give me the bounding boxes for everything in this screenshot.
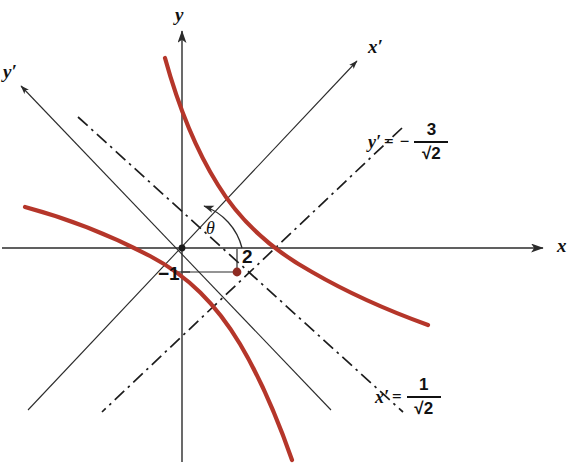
x-prime-equation-var: x [375,387,384,408]
x-prime-equation-fraction: 1 √2 [407,375,441,419]
x-axis-label: x [557,236,567,255]
x-prime-equation-prime: ′ [384,387,389,408]
x-prime-axis-label-prime: ′ [378,36,383,57]
y-prime-equation-sign: − [400,132,410,152]
x-prime-axis-line [28,61,357,410]
y-prime-equation-fraction: 3 √2 [414,120,448,164]
y-prime-equation: y′ = − 3 √2 [368,120,448,164]
dash-dot-line-parallel-x-prime [78,117,403,412]
theta-label: θ [206,219,215,237]
x-prime-axis-label-var: x [368,36,378,57]
x-prime-equation-equals: = [392,387,402,407]
primed-axes-group [21,61,357,410]
dash-dot-lines-group [78,117,403,412]
tick-label-minus-one: −1 [158,264,180,283]
y-axis-label: y [175,5,183,24]
origin-dot [179,245,186,252]
marked-point-dot [233,268,242,277]
x-prime-equation-denominator: √2 [409,398,438,419]
marked-point-group [176,245,241,277]
y-prime-axis-label: y′ [3,62,17,81]
x-prime-axis-label: x′ [368,37,383,56]
figure-canvas: x y x′ y′ θ −1 2 y′ = − 3 √2 x′ = 1 √2 [0,0,572,466]
hyperbola-branch-lower-left [25,207,292,460]
x-prime-equation: x′ = 1 √2 [375,375,441,419]
y-prime-equation-prime: ′ [376,132,381,153]
tick-label-two: 2 [242,247,253,266]
x-prime-equation-numerator: 1 [414,375,433,396]
hyperbola-branches-group [25,58,428,460]
diagram-svg [0,0,572,466]
y-prime-equation-var: y [368,132,376,153]
y-prime-equation-equals: = [384,132,394,152]
hyperbola-branch-upper-right [165,58,428,325]
y-prime-equation-denominator: √2 [417,143,446,164]
y-prime-axis-label-prime: ′ [11,61,16,82]
y-prime-equation-numerator: 3 [422,120,441,141]
